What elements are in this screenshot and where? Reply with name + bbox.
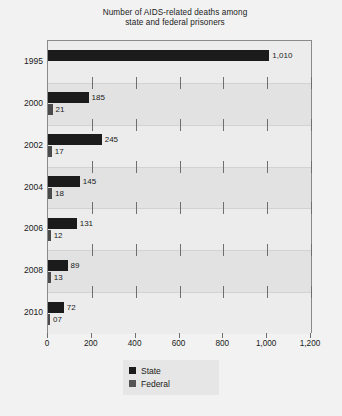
plot-tick-mark bbox=[136, 161, 137, 173]
plot-tick-mark bbox=[311, 244, 312, 256]
legend-swatch-state-icon bbox=[129, 367, 136, 374]
bar-state bbox=[48, 50, 269, 61]
plot-tick-mark bbox=[223, 161, 224, 173]
chart-title: Number of AIDS-related deaths among stat… bbox=[40, 8, 310, 28]
plot-tick-mark bbox=[92, 202, 93, 214]
y-axis-label-2006: 2006 bbox=[1, 223, 43, 233]
plot-tick-mark bbox=[92, 286, 93, 298]
legend-label-federal: Federal bbox=[141, 379, 170, 389]
legend-swatch-federal-icon bbox=[129, 380, 136, 387]
plot-tick-mark bbox=[267, 119, 268, 131]
chart-legend: State Federal bbox=[123, 360, 219, 395]
plot-tick-mark bbox=[267, 77, 268, 89]
bar-value-label-state: 185 bbox=[92, 93, 105, 102]
plot-tick-mark bbox=[267, 286, 268, 298]
plot-tick-mark bbox=[311, 202, 312, 214]
plot-tick-mark bbox=[136, 119, 137, 131]
bar-federal bbox=[48, 146, 52, 157]
plot-tick-mark bbox=[267, 161, 268, 173]
plot-tick-mark bbox=[311, 161, 312, 173]
x-axis-tick-label: 800 bbox=[215, 339, 229, 348]
y-axis-category-labels: 1995200020022004200620082010 bbox=[0, 40, 43, 333]
x-axis-tick bbox=[135, 333, 136, 338]
bar-value-label-federal: 21 bbox=[56, 105, 65, 114]
plot-area: 1,0101852124517145181311289137207 bbox=[47, 40, 312, 333]
y-axis-label-2000: 2000 bbox=[1, 98, 43, 108]
plot-tick-mark bbox=[136, 77, 137, 89]
plot-tick-mark bbox=[92, 119, 93, 131]
plot-tick-mark bbox=[311, 77, 312, 89]
x-axis: 02004006008001,0001,200 bbox=[47, 333, 312, 355]
plot-tick-mark bbox=[136, 286, 137, 298]
bar-state bbox=[48, 302, 64, 313]
legend-item-state: State bbox=[129, 364, 213, 377]
y-axis-label-2002: 2002 bbox=[1, 140, 43, 150]
y-axis-label-2010: 2010 bbox=[1, 307, 43, 317]
bar-value-label-state: 1,010 bbox=[272, 51, 292, 60]
bar-value-label-federal: 07 bbox=[53, 315, 62, 324]
bar-federal bbox=[48, 314, 50, 325]
bar-federal bbox=[48, 230, 51, 241]
bar-value-label-federal: 17 bbox=[55, 147, 64, 156]
x-axis-tick-label: 1,200 bbox=[300, 339, 321, 348]
bar-federal bbox=[48, 188, 52, 199]
bar-state bbox=[48, 260, 68, 271]
bar-value-label-federal: 18 bbox=[55, 189, 64, 198]
x-axis-tick bbox=[91, 333, 92, 338]
x-axis-tick-label: 400 bbox=[128, 339, 142, 348]
plot-tick-mark bbox=[267, 202, 268, 214]
bar-state bbox=[48, 218, 77, 229]
bar-state bbox=[48, 176, 80, 187]
bar-value-label-state: 89 bbox=[71, 261, 80, 270]
x-axis-tick bbox=[47, 333, 48, 338]
bar-state bbox=[48, 134, 102, 145]
bar-value-label-federal: 12 bbox=[54, 231, 63, 240]
x-axis-tick-label: 0 bbox=[45, 339, 50, 348]
plot-tick-mark bbox=[180, 244, 181, 256]
x-axis-tick bbox=[179, 333, 180, 338]
plot-tick-mark bbox=[223, 202, 224, 214]
plot-tick-mark bbox=[180, 202, 181, 214]
bar-value-label-state: 72 bbox=[67, 303, 76, 312]
x-axis-tick bbox=[310, 333, 311, 338]
x-axis-tick-label: 600 bbox=[172, 339, 186, 348]
x-axis-tick-label: 200 bbox=[84, 339, 98, 348]
plot-tick-mark bbox=[311, 119, 312, 131]
plot-tick-mark bbox=[92, 161, 93, 173]
plot-tick-mark bbox=[223, 286, 224, 298]
y-axis-label-2008: 2008 bbox=[1, 265, 43, 275]
y-axis-label-1995: 1995 bbox=[1, 56, 43, 66]
plot-tick-mark bbox=[180, 77, 181, 89]
plot-tick-mark bbox=[223, 77, 224, 89]
chart-title-line-1: Number of AIDS-related deaths among bbox=[40, 8, 310, 18]
plot-tick-mark bbox=[311, 286, 312, 298]
plot-tick-mark bbox=[223, 119, 224, 131]
chart-page: Number of AIDS-related deaths among stat… bbox=[0, 0, 342, 416]
bar-value-label-state: 145 bbox=[83, 177, 96, 186]
chart-title-line-2: state and federal prisoners bbox=[40, 18, 310, 28]
plot-tick-mark bbox=[92, 244, 93, 256]
x-axis-tick bbox=[266, 333, 267, 338]
bar-state bbox=[48, 92, 89, 103]
plot-tick-mark bbox=[267, 244, 268, 256]
plot-band-row bbox=[48, 292, 311, 334]
plot-tick-mark bbox=[92, 77, 93, 89]
plot-tick-mark bbox=[180, 161, 181, 173]
bar-value-label-state: 131 bbox=[80, 219, 93, 228]
plot-tick-mark bbox=[136, 202, 137, 214]
plot-tick-mark bbox=[180, 286, 181, 298]
bar-federal bbox=[48, 104, 53, 115]
bar-value-label-federal: 13 bbox=[54, 273, 63, 282]
x-axis-tick-label: 1,000 bbox=[256, 339, 277, 348]
legend-item-federal: Federal bbox=[129, 377, 213, 390]
plot-tick-mark bbox=[223, 244, 224, 256]
bar-value-label-state: 245 bbox=[105, 135, 118, 144]
x-axis-tick bbox=[222, 333, 223, 338]
plot-tick-mark bbox=[136, 244, 137, 256]
y-axis-label-2004: 2004 bbox=[1, 182, 43, 192]
plot-tick-mark bbox=[180, 119, 181, 131]
bar-federal bbox=[48, 272, 51, 283]
legend-label-state: State bbox=[141, 366, 161, 376]
